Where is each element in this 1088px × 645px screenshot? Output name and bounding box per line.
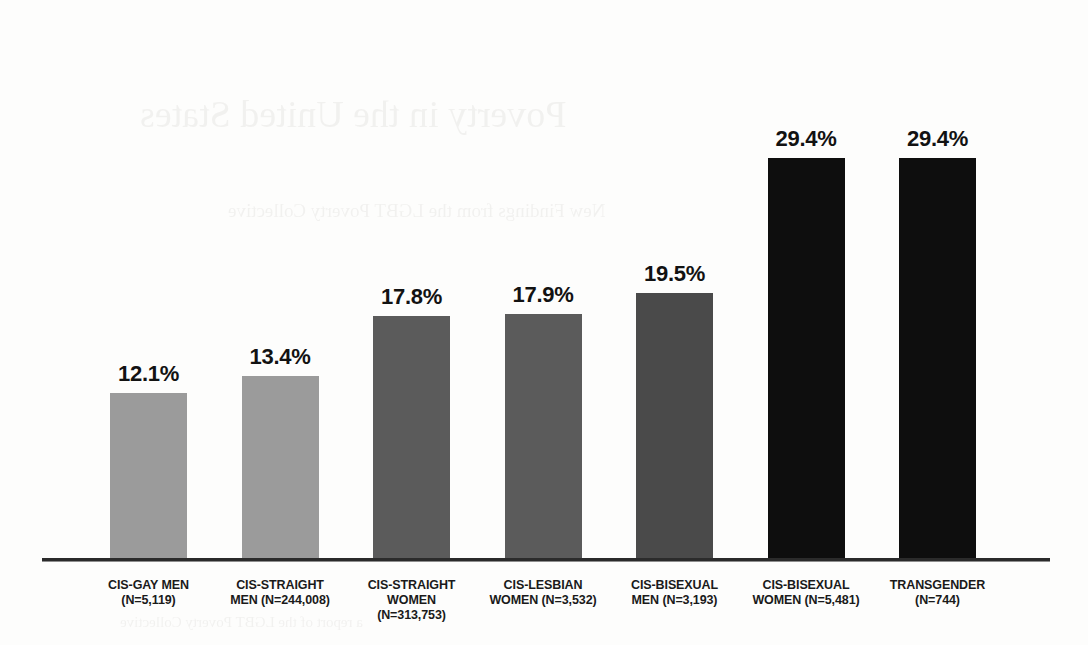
category-label-line: (N=744) (857, 593, 1018, 608)
bar-cis-bisexual-women (768, 158, 845, 558)
bar-cis-straight-men (242, 376, 319, 558)
category-label-line: (N=313,753) (331, 608, 492, 623)
value-label-cis-straight-women: 17.8% (348, 284, 475, 310)
x-axis-line (42, 558, 1050, 561)
value-label-cis-gay-men: 12.1% (85, 361, 212, 387)
value-label-transgender: 29.4% (874, 126, 1001, 152)
chart-page: Poverty in the United States New Finding… (0, 0, 1088, 645)
bar-cis-gay-men (110, 393, 187, 558)
value-label-cis-straight-men: 13.4% (217, 344, 344, 370)
category-label-line: TRANSGENDER (857, 578, 1018, 593)
bar-cis-bisexual-men (636, 293, 713, 558)
category-label-transgender: TRANSGENDER(N=744) (857, 578, 1018, 608)
bar-cis-lesbian-women (505, 314, 582, 558)
bar-cis-straight-women (373, 316, 450, 558)
value-label-cis-bisexual-women: 29.4% (743, 126, 870, 152)
bar-transgender (899, 158, 976, 558)
bar-chart-plot-area: 12.1%13.4%17.8%17.9%19.5%29.4%29.4% CIS-… (0, 0, 1088, 645)
value-label-cis-bisexual-men: 19.5% (611, 261, 738, 287)
value-label-cis-lesbian-women: 17.9% (480, 282, 607, 308)
